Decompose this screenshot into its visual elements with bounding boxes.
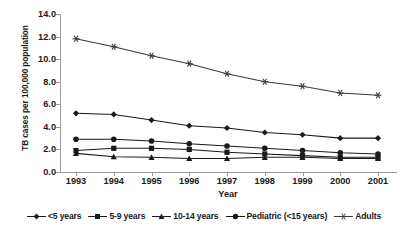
legend-label: Pediatric (<15 years) bbox=[247, 211, 328, 222]
data-point-asterisk bbox=[340, 213, 347, 219]
legend-label: Adults bbox=[355, 211, 381, 222]
legend-item[interactable]: 10-14 years bbox=[152, 211, 218, 222]
legend-item[interactable]: <5 years bbox=[27, 211, 81, 222]
y-tick-label: 12.0 bbox=[26, 32, 56, 42]
data-point-circle bbox=[149, 138, 155, 144]
data-point-square bbox=[187, 147, 192, 152]
series-4 bbox=[73, 36, 382, 98]
x-tick-label: 2000 bbox=[320, 175, 360, 187]
x-tick-label: 1998 bbox=[245, 175, 285, 187]
legend-label: 5-9 years bbox=[109, 211, 145, 222]
legend-item[interactable]: Pediatric (<15 years) bbox=[226, 211, 328, 222]
data-point-diamond bbox=[111, 111, 117, 117]
data-point-circle bbox=[186, 141, 192, 147]
legend-marker-triangle-icon bbox=[152, 211, 171, 222]
x-tick-label: 1997 bbox=[207, 175, 247, 187]
data-point-circle bbox=[337, 150, 343, 156]
data-point-circle bbox=[232, 213, 237, 218]
data-point-diamond bbox=[375, 135, 381, 141]
y-axis-tick-labels: 0.02.04.06.08.010.012.014.0 bbox=[24, 0, 56, 232]
legend-marker-circle-icon bbox=[226, 211, 245, 222]
y-tick-label: 2.0 bbox=[26, 144, 56, 154]
data-point-asterisk bbox=[110, 44, 117, 50]
data-point-circle bbox=[262, 146, 268, 152]
legend-label: 10-14 years bbox=[173, 211, 218, 222]
data-point-asterisk bbox=[375, 92, 382, 98]
data-point-circle bbox=[111, 136, 117, 142]
y-tick-label: 6.0 bbox=[26, 99, 56, 109]
data-point-asterisk bbox=[224, 71, 231, 77]
legend-marker-square-icon bbox=[88, 211, 107, 222]
data-point-diamond bbox=[33, 213, 39, 219]
x-tick-label: 1994 bbox=[94, 175, 134, 187]
series-layer bbox=[60, 14, 396, 173]
y-tick-label: 8.0 bbox=[26, 77, 56, 87]
series-0 bbox=[73, 110, 381, 141]
y-tick-label: 14.0 bbox=[26, 9, 56, 19]
y-tick-mark bbox=[56, 149, 60, 150]
y-tick-label: 0.0 bbox=[26, 167, 56, 177]
y-tick-mark bbox=[56, 37, 60, 38]
y-tick-mark bbox=[56, 104, 60, 105]
y-tick-label: 4.0 bbox=[26, 122, 56, 132]
data-point-circle bbox=[224, 143, 230, 149]
legend-marker-diamond-icon bbox=[27, 211, 46, 222]
plot-area bbox=[60, 14, 396, 172]
legend-item[interactable]: 5-9 years bbox=[88, 211, 145, 222]
y-tick-mark bbox=[56, 59, 60, 60]
data-point-circle bbox=[300, 148, 306, 154]
y-tick-mark bbox=[56, 172, 60, 173]
legend-label: <5 years bbox=[48, 211, 81, 222]
data-point-diamond bbox=[299, 132, 305, 138]
data-point-diamond bbox=[337, 135, 343, 141]
data-point-diamond bbox=[73, 110, 79, 116]
data-point-asterisk bbox=[186, 61, 193, 67]
data-point-asterisk bbox=[261, 79, 268, 85]
data-point-asterisk bbox=[73, 36, 80, 42]
x-tick-label: 1996 bbox=[169, 175, 209, 187]
data-point-square bbox=[224, 150, 229, 155]
data-point-square bbox=[149, 146, 154, 151]
data-point-diamond bbox=[262, 129, 268, 135]
data-point-diamond bbox=[186, 123, 192, 129]
x-tick-label: 1995 bbox=[132, 175, 172, 187]
series-line bbox=[76, 39, 378, 95]
x-tick-label: 1999 bbox=[283, 175, 323, 187]
data-point-square bbox=[111, 146, 116, 151]
y-tick-label: 10.0 bbox=[26, 54, 56, 64]
y-tick-mark bbox=[56, 127, 60, 128]
data-point-asterisk bbox=[299, 83, 306, 89]
x-tick-label: 2001 bbox=[358, 175, 398, 187]
x-axis-title: Year bbox=[60, 188, 396, 200]
tb-cases-line-chart: TB cases per 100,000 population 0.02.04.… bbox=[0, 0, 408, 232]
data-point-circle bbox=[73, 136, 79, 142]
data-point-diamond bbox=[148, 117, 154, 123]
data-point-asterisk bbox=[337, 90, 344, 96]
chart-legend: <5 years5-9 years10-14 yearsPediatric (<… bbox=[0, 205, 408, 227]
data-point-asterisk bbox=[148, 53, 155, 59]
legend-item[interactable]: Adults bbox=[334, 211, 381, 222]
x-tick-label: 1993 bbox=[56, 175, 96, 187]
legend-marker-asterisk-icon bbox=[334, 211, 353, 222]
data-point-circle bbox=[375, 151, 381, 157]
x-axis-tick-labels: 199319941995199619971998199920002001 bbox=[60, 175, 400, 189]
y-tick-mark bbox=[56, 14, 60, 15]
data-point-diamond bbox=[224, 125, 230, 131]
y-tick-mark bbox=[56, 82, 60, 83]
data-point-square bbox=[95, 214, 100, 219]
